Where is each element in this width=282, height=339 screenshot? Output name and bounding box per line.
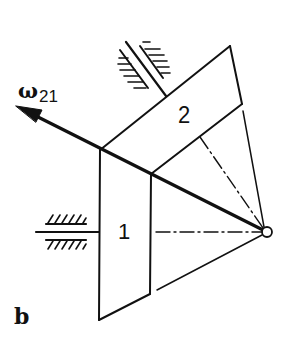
gear-1-label: 1 [118, 219, 130, 245]
hatching-lower [48, 241, 86, 249]
panel-label: b [14, 303, 29, 329]
gear-1-bearing [36, 215, 99, 249]
cone-apex-point [262, 227, 272, 237]
cone-generator-lines [157, 111, 264, 290]
gear-2-outline [100, 46, 242, 174]
gear-2-bearing [118, 42, 170, 96]
omega-subscript: 21 [39, 87, 58, 106]
omega-21-vector [16, 106, 263, 230]
arrowhead-icon [16, 106, 42, 122]
gear-2-label: 2 [178, 102, 190, 129]
bevel-gear-diagram [0, 0, 282, 339]
omega-symbol: ω [18, 78, 38, 103]
omega-21-label: ω21 [18, 78, 58, 103]
hatching-upper [48, 215, 86, 223]
